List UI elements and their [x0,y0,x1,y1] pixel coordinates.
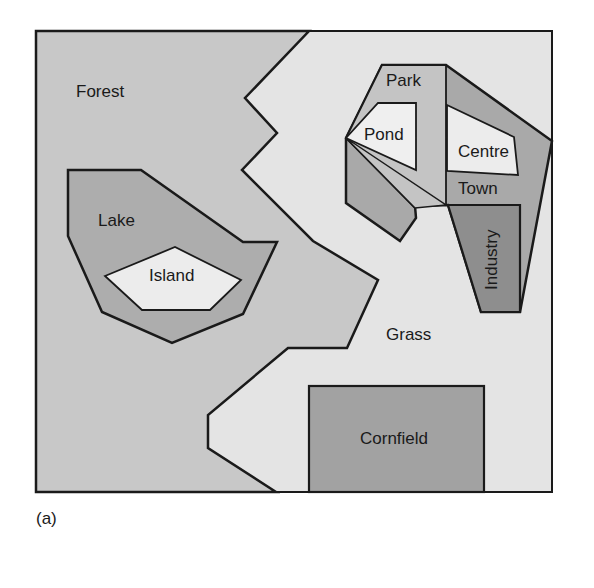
label-town: Town [458,179,498,198]
label-pond: Pond [364,125,404,144]
figure-caption: (a) [36,509,57,529]
label-grass: Grass [386,325,431,344]
label-centre: Centre [458,142,509,161]
label-lake: Lake [98,211,135,230]
label-island: Island [149,266,194,285]
label-industry: Industry [482,229,501,290]
label-park: Park [386,71,421,90]
label-cornfield: Cornfield [360,429,428,448]
region-map: Forest Lake Island Park Pond Centre Town… [0,0,594,588]
label-forest: Forest [76,82,124,101]
